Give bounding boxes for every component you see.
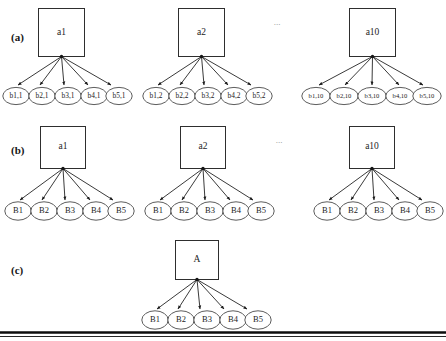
leaf-label: b3,2 — [202, 91, 215, 100]
edge-hub-a1 — [60, 55, 63, 58]
leaf-label: b3,10 — [365, 92, 381, 99]
leaf-label: B4 — [91, 205, 102, 215]
leaves-b2: B1 B2 B3 B4 B5 — [145, 202, 274, 220]
leaf-label: B5 — [253, 314, 263, 324]
leaf-label: B2 — [179, 205, 189, 215]
node-label-a10: a10 — [366, 27, 380, 37]
leaves-c1: B1 B2 B3 B4 B5 — [142, 311, 271, 329]
leaf-label: b3,1 — [62, 91, 75, 100]
leaves-a1: b1,1 b2,1 b3,1 b4,1 b5,1 — [3, 87, 132, 104]
leaf-label: b1,1 — [10, 91, 23, 100]
edge-a10-3 — [372, 57, 373, 86]
leaf-label: B5 — [256, 205, 266, 215]
edge-hub-b2 — [201, 167, 204, 170]
leaf-label: B1 — [13, 205, 23, 215]
node-label-b10-root: a10 — [365, 141, 379, 151]
leaf-label: B3 — [202, 314, 212, 324]
leaf-label: B2 — [348, 205, 358, 215]
leaf-label: B5 — [425, 205, 435, 215]
row-label-b: (b) — [11, 144, 25, 157]
leaf-label: B1 — [150, 314, 160, 324]
row-a-ellipsis: ... — [274, 17, 281, 27]
leaf-label: B2 — [39, 205, 49, 215]
tree-diagram-figure: (a) a1 b1,1 b2,1 b3,1 b4,1 — [0, 0, 446, 341]
node-label-b1-root: a1 — [59, 141, 68, 151]
row-b-ellipsis: ... — [276, 135, 283, 145]
leaf-label: b2,2 — [176, 91, 189, 100]
leaf-label: b4,10 — [393, 92, 409, 99]
leaves-b10: B1 B2 B3 B4 B5 — [314, 202, 443, 220]
leaf-label: B3 — [65, 205, 75, 215]
leaf-label: B3 — [205, 205, 215, 215]
leaf-label: B3 — [374, 205, 384, 215]
row-label-a: (a) — [11, 31, 24, 44]
leaf-label: B1 — [322, 205, 332, 215]
node-label-a1: a1 — [57, 27, 66, 37]
leaf-label: B4 — [231, 205, 242, 215]
leaf-label: B4 — [400, 205, 411, 215]
node-label-a2: a2 — [197, 27, 206, 37]
node-label-A: A — [194, 254, 201, 264]
leaf-label: b1,10 — [309, 92, 325, 99]
leaf-label: b4,1 — [88, 91, 101, 100]
leaves-a2: b1,2 b2,2 b3,2 b4,2 b5,2 — [143, 87, 272, 104]
leaf-label: b4,2 — [228, 91, 241, 100]
leaf-label: B2 — [176, 314, 186, 324]
leaf-label: B5 — [116, 205, 126, 215]
leaf-label: b5,1 — [113, 91, 126, 100]
leaf-label: b5,2 — [253, 91, 266, 100]
row-label-c: (c) — [11, 264, 24, 277]
edge-hub-b10 — [370, 167, 373, 170]
leaf-label: B1 — [153, 205, 163, 215]
edge-hub-a10 — [371, 55, 374, 58]
node-label-b2-root: a2 — [199, 141, 208, 151]
leaf-label: b2,1 — [36, 91, 49, 100]
edge-hub-a2 — [200, 55, 203, 58]
leaf-label: b5,10 — [420, 92, 436, 99]
leaf-label: b2,10 — [337, 92, 353, 99]
leaf-label: b1,2 — [150, 91, 163, 100]
leaves-b1: B1 B2 B3 B4 B5 — [5, 202, 134, 220]
leaf-label: B4 — [228, 314, 239, 324]
leaves-a10: b1,10 b2,10 b3,10 b4,10 b5,10 — [302, 87, 441, 104]
edge-hub-b1 — [61, 167, 64, 170]
edge-hub-A — [195, 278, 198, 281]
